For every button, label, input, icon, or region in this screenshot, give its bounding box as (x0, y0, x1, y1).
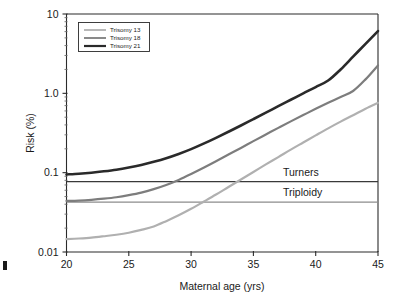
y-tick-label-1.0: 1.0 (44, 87, 59, 99)
x-tick-label-20: 20 (61, 258, 73, 270)
chart-background (0, 0, 399, 300)
y-tick-label-0.01: 0.01 (38, 246, 59, 258)
legend-label-trisomy-18: Trisomy 18 (110, 34, 141, 41)
y-axis-title: Risk (%) (24, 113, 36, 153)
legend-label-trisomy-21: Trisomy 21 (110, 42, 141, 49)
legend-items: Trisomy 13Trisomy 18Trisomy 21 (84, 26, 141, 49)
reference-label-triploidy: Triploidy (283, 186, 323, 198)
legend-label-trisomy-13: Trisomy 13 (110, 26, 141, 33)
x-tick-label-25: 25 (123, 258, 135, 270)
x-tick-label-30: 30 (185, 258, 197, 270)
y-tick-label-10: 10 (47, 8, 59, 20)
page-edge-artifact (3, 261, 7, 270)
x-axis-title: Maternal age (yrs) (179, 280, 264, 292)
risk-vs-maternal-age-chart: 0.010.11.010 202530354045 Turners Triplo… (0, 0, 399, 300)
x-tick-label-45: 45 (372, 258, 384, 270)
x-tick-label-40: 40 (310, 258, 322, 270)
legend: Trisomy 13Trisomy 18Trisomy 21 (79, 23, 150, 52)
x-tick-label-35: 35 (248, 258, 260, 270)
reference-label-turners: Turners (283, 166, 319, 178)
y-tick-label-0.1: 0.1 (44, 166, 59, 178)
